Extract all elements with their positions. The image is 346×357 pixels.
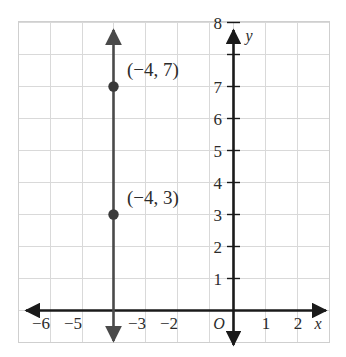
point-label-lower: (−4, 3)	[127, 187, 179, 209]
x-axis-name-label: x	[313, 315, 321, 332]
data-point-neg4-7	[108, 81, 118, 91]
y-tick-label-6: 6	[214, 110, 223, 129]
y-axis-name-label: y	[243, 27, 253, 45]
y-tick-label-3: 3	[214, 206, 223, 225]
y-tick-label-1: 1	[214, 270, 223, 289]
x-tick-label-neg6: −6	[32, 314, 50, 333]
origin-label: O	[213, 315, 225, 332]
x-tick-label-neg2: −2	[160, 314, 178, 333]
x-tick-label-neg3: −3	[128, 314, 146, 333]
y-tick-label-7: 7	[214, 78, 223, 97]
coordinate-plane-figure: (−4, 7) (−4, 3) 8 7 6 5 4 3 2 1 −6 −5 −3…	[0, 0, 346, 357]
x-tick-label-pos1: 1	[262, 314, 271, 333]
y-tick-label-8: 8	[214, 14, 223, 33]
point-label-upper: (−4, 7)	[127, 59, 179, 81]
y-tick-label-4: 4	[214, 174, 223, 193]
data-point-neg4-3	[108, 209, 118, 219]
x-tick-label-pos2: 2	[294, 314, 303, 333]
y-tick-label-5: 5	[214, 142, 223, 161]
x-tick-label-neg5: −5	[64, 314, 82, 333]
figure-background	[0, 0, 346, 357]
y-tick-label-2: 2	[214, 238, 223, 257]
coordinate-plane-svg: (−4, 7) (−4, 3) 8 7 6 5 4 3 2 1 −6 −5 −3…	[0, 0, 346, 357]
